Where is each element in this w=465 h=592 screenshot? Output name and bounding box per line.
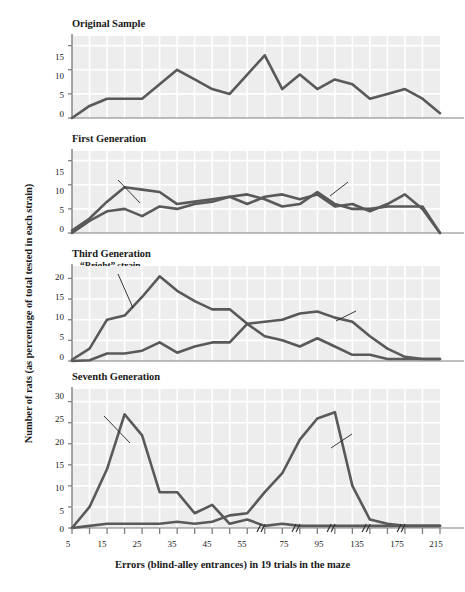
panel-2-plot	[68, 149, 464, 233]
panel-4-plot	[68, 387, 464, 528]
panel-3-plot	[68, 264, 464, 361]
plot-canvas	[0, 0, 465, 592]
panel-1-plot	[68, 34, 464, 118]
figure-container: Number of rats (as percentage of total t…	[0, 0, 465, 592]
